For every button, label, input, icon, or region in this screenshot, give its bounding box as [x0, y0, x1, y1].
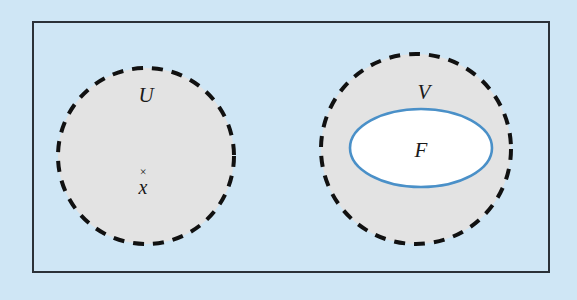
region-f-label: F — [414, 138, 428, 162]
point-x-label: x — [138, 176, 148, 198]
region-v-label: V — [418, 80, 433, 104]
figure-canvas: × U V F x — [0, 0, 577, 300]
set-diagram-svg: × U V F x — [0, 0, 577, 300]
region-u-label: U — [138, 83, 155, 107]
